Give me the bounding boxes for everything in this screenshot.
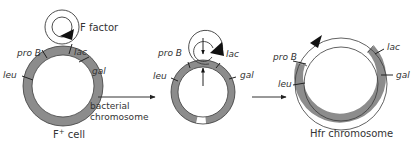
f-factor-outer-strand (45, 10, 79, 44)
bacterial-chromosome-label-line2: chromosome (90, 112, 149, 122)
gene-label-leu: leu (153, 71, 167, 81)
chromosome-inner-edge (32, 55, 94, 117)
panel-hfr: pro B lac leu gal Hfr chromosome (272, 35, 410, 139)
f-plus-cell-caption: F+ cell (53, 128, 85, 140)
f-factor-arrowhead-icon (210, 42, 224, 56)
panel-integration: pro B lac leu gal (153, 30, 254, 124)
gene-label-lac: lac (226, 49, 239, 59)
f-factor-plasmid (189, 30, 224, 64)
gene-label-prob: pro B (272, 52, 297, 62)
chromosome-fill (28, 51, 99, 122)
f-factor-label: F factor (80, 22, 119, 33)
gene-label-lac: lac (74, 47, 87, 57)
hfr-formation-diagram: F factor pro B lac leu gal bacterial chr… (0, 0, 414, 146)
gene-label-gal: gal (92, 66, 106, 76)
bacterial-chromosome-label-line1: bacterial (90, 101, 129, 111)
f-factor-arrowhead-icon (310, 35, 322, 48)
hfr-chromosome-ring (293, 35, 393, 130)
chromosome-inner-edge (304, 47, 378, 121)
gene-label-leu: leu (3, 70, 17, 80)
f-factor-plasmid (45, 10, 79, 44)
gene-label-prob: pro B (157, 48, 182, 58)
hfr-chromosome-caption: Hfr chromosome (310, 128, 393, 139)
f-factor-arrowhead-icon (60, 29, 74, 40)
gene-label-lac: lac (387, 42, 400, 52)
gene-label-leu: leu (278, 79, 292, 89)
panel-f-plus-cell: F factor pro B lac leu gal bacterial chr… (3, 10, 149, 140)
gene-label-gal: gal (396, 70, 410, 80)
gene-label-prob: pro B (16, 48, 41, 58)
gene-label-gal: gal (240, 70, 254, 80)
